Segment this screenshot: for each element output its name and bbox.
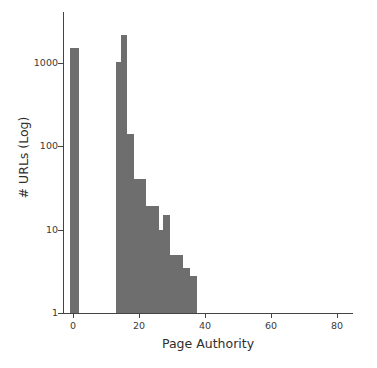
y-tick-mark xyxy=(58,63,63,64)
x-tick-mark xyxy=(337,314,338,318)
y-tick-label-text: 1000 xyxy=(22,58,58,68)
histogram-bar xyxy=(121,35,128,313)
histogram-bar xyxy=(70,48,79,313)
y-tick-mark xyxy=(58,313,63,314)
y-tick-label: 100 xyxy=(16,141,58,151)
histogram-bar xyxy=(170,255,177,313)
x-tick-label: 80 xyxy=(317,320,357,331)
histogram-bar xyxy=(183,268,190,313)
x-tick-mark xyxy=(73,314,74,318)
x-tick-mark xyxy=(139,314,140,318)
histogram-bar xyxy=(190,276,197,313)
y-tick-label: 1 xyxy=(16,308,58,318)
x-tick-label: 0 xyxy=(53,320,93,331)
x-tick-label: 60 xyxy=(251,320,291,331)
plot-area xyxy=(63,12,353,313)
x-tick-mark xyxy=(205,314,206,318)
y-tick-label-text: 10 xyxy=(22,225,58,235)
y-tick-label: 1000 xyxy=(16,58,58,68)
y-tick-label-text: 100 xyxy=(22,141,58,151)
histogram-bar xyxy=(177,255,184,313)
y-tick-label: 10 xyxy=(16,225,58,235)
x-tick-label: 40 xyxy=(185,320,225,331)
y-tick-mark xyxy=(58,146,63,147)
x-axis-spine xyxy=(63,313,353,314)
histogram-figure: # URLs (Log) Page Authority 110100100002… xyxy=(0,0,377,368)
y-tick-label-text: 1 xyxy=(22,308,58,318)
x-tick-label: 20 xyxy=(119,320,159,331)
x-tick-mark xyxy=(271,314,272,318)
histogram-bar xyxy=(163,215,170,313)
y-axis-title: # URLs (Log) xyxy=(16,88,31,228)
histogram-bar xyxy=(140,179,147,313)
y-axis-spine xyxy=(63,12,64,314)
y-tick-mark xyxy=(58,230,63,231)
x-axis-title: Page Authority xyxy=(63,336,353,351)
